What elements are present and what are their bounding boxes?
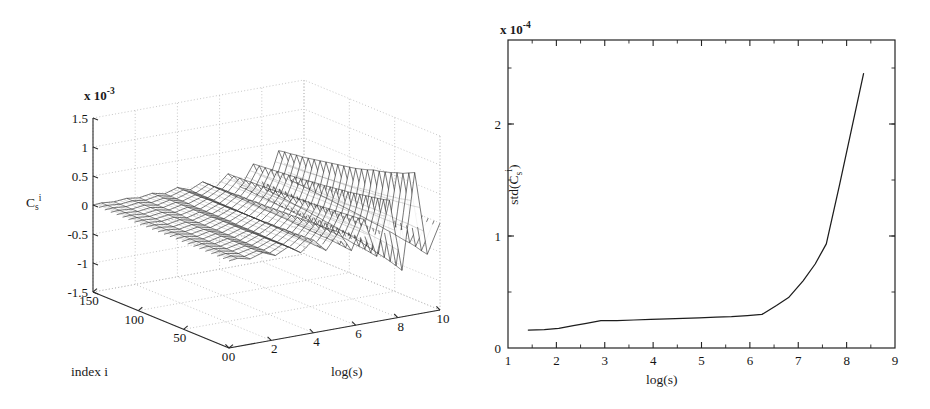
z-exponent-power: -3 bbox=[107, 86, 115, 96]
y-axis-exponent-label: x 10-4 bbox=[500, 20, 531, 38]
std-curve bbox=[528, 74, 863, 330]
z-axis-exponent-label: x 10-3 bbox=[84, 86, 115, 104]
x-tick-label: 5 bbox=[698, 353, 705, 368]
y-tick-label: 0 bbox=[495, 341, 502, 356]
logs-tick-label: 4 bbox=[313, 334, 320, 349]
y-axis-title-sup: i bbox=[504, 169, 514, 172]
index-i-tick-label: 50 bbox=[173, 330, 186, 345]
y-tick-label: 1 bbox=[495, 229, 502, 244]
y-axis-title-suffix: ) bbox=[506, 165, 521, 170]
logs-tick-label: 2 bbox=[271, 341, 278, 356]
z-tick-label: 1.5 bbox=[72, 111, 88, 126]
z-axis-title: Csi bbox=[26, 193, 41, 212]
figure-container: 1.510.50-0.5-1-1.51501005000246810 x 10-… bbox=[0, 0, 930, 409]
x-tick-label: 6 bbox=[747, 353, 754, 368]
y-exponent-power: -4 bbox=[523, 20, 531, 30]
z-exponent-base: x 10 bbox=[84, 88, 107, 103]
y-axis-title-sub: s bbox=[514, 172, 524, 176]
x-tick-label: 9 bbox=[892, 353, 899, 368]
z-axis-title-sup: i bbox=[39, 193, 42, 203]
z-tick-label: -1 bbox=[77, 256, 88, 271]
logs-tick-label: 8 bbox=[398, 319, 405, 334]
logs-tick-label: 10 bbox=[437, 311, 450, 326]
logs-tick-label: 6 bbox=[355, 326, 362, 341]
x-tick-label: 3 bbox=[602, 353, 609, 368]
x-tick-label: 1 bbox=[505, 353, 512, 368]
y-tick-label: 2 bbox=[495, 117, 502, 132]
y-exponent-base: x 10 bbox=[500, 22, 523, 37]
x-axis-title-logs-left: log(s) bbox=[331, 364, 363, 380]
surface-plot-svg: 1.510.50-0.5-1-1.51501005000246810 bbox=[0, 0, 465, 409]
z-tick-label: 0 bbox=[82, 198, 89, 213]
z-tick-label: 0.5 bbox=[72, 169, 88, 184]
x-tick-label: 7 bbox=[795, 353, 802, 368]
surface-mesh bbox=[93, 151, 440, 271]
z-tick-label: -0.5 bbox=[67, 227, 88, 242]
y-axis-title-prefix: std(C bbox=[506, 175, 521, 204]
logs-tick-label: 0 bbox=[229, 349, 236, 364]
index-i-tick-label: 0 bbox=[222, 349, 229, 364]
x-axis-title-logs-right: log(s) bbox=[646, 372, 678, 388]
x-tick-label: 4 bbox=[650, 353, 657, 368]
z-axis-title-base: C bbox=[26, 195, 35, 210]
z-axis-title-sub: s bbox=[35, 202, 39, 212]
index-i-tick-label: 100 bbox=[125, 312, 145, 327]
y-axis-title-index-i: index i bbox=[71, 364, 108, 380]
line-plot-svg: 123456789012 bbox=[465, 0, 930, 409]
left-panel-surface-plot: 1.510.50-0.5-1-1.51501005000246810 x 10-… bbox=[0, 0, 465, 409]
x-tick-label: 8 bbox=[843, 353, 850, 368]
x-tick-label: 2 bbox=[553, 353, 560, 368]
plot-tick-labels: 123456789012 bbox=[495, 117, 899, 368]
index-i-tick-label: 150 bbox=[79, 293, 99, 308]
right-panel-line-plot: 123456789012 x 10-4 std(Csi) log(s) bbox=[465, 0, 930, 409]
y-axis-title-std: std(Csi) bbox=[504, 130, 523, 240]
std-curve-path bbox=[528, 74, 863, 330]
z-tick-label: 1 bbox=[82, 140, 89, 155]
